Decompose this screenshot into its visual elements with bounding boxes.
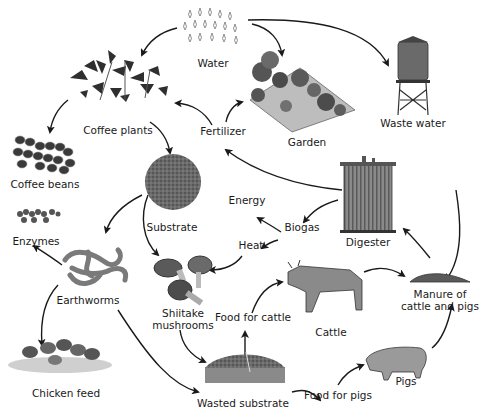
label-chicken-feed: Chicken feed (32, 387, 100, 399)
label-garden: Garden (288, 136, 326, 148)
label-water: Water (197, 57, 228, 69)
label-cattle: Cattle (315, 326, 346, 338)
label-manure: Manure of cattle and pigs (400, 288, 480, 312)
label-earthworms: Earthworms (57, 294, 120, 306)
label-wasted-substrate: Wasted substrate (197, 397, 289, 409)
coffee-beans-icon (13, 136, 75, 174)
enzymes-icon (17, 209, 61, 223)
label-substrate: Substrate (147, 221, 198, 233)
label-coffee-beans: Coffee beans (11, 178, 80, 190)
label-food-for-cattle: Food for cattle (215, 311, 291, 323)
water-drops-icon (184, 8, 238, 44)
label-biogas: Biogas (284, 221, 319, 233)
label-digester: Digester (346, 236, 391, 248)
label-enzymes: Enzymes (12, 235, 59, 247)
label-waste-water: Waste water (380, 117, 445, 129)
label-fertilizer: Fertilizer (200, 125, 245, 137)
cow-icon (288, 260, 362, 312)
label-coffee-plants: Coffee plants (83, 124, 153, 136)
coffee-plant-icon (70, 50, 168, 102)
garden-icon (250, 51, 355, 132)
water-tower-icon (396, 36, 430, 115)
earthworms-icon (65, 250, 126, 284)
manure-icon (410, 274, 470, 282)
wasted-substrate-icon (205, 352, 285, 383)
chickens-icon (8, 339, 112, 373)
label-food-for-pigs: Food for pigs (304, 389, 372, 401)
diagram-graphics (0, 0, 483, 419)
label-energy: Energy (229, 194, 266, 206)
digester-tank-icon (340, 156, 396, 233)
flow-arrows (34, 20, 460, 400)
label-pigs: Pigs (395, 375, 416, 387)
label-heat: Heat (239, 239, 264, 251)
mushroom-icon (154, 256, 212, 305)
coffee-cycle-diagram: Water Garden Waste water Coffee plants F… (0, 0, 483, 419)
substrate-icon (145, 154, 201, 210)
